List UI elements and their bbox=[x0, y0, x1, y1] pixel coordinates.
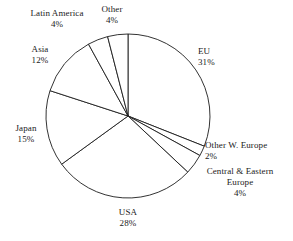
pie-label-other: Other 4% bbox=[90, 4, 134, 26]
pie-label-latin-america-name: Latin America bbox=[22, 8, 92, 19]
pie-label-asia-value: 12% bbox=[18, 55, 62, 66]
pie-label-asia-name: Asia bbox=[18, 44, 62, 55]
pie-label-latin-america: Latin America 4% bbox=[22, 8, 92, 30]
pie-label-other-name: Other bbox=[90, 4, 134, 15]
pie-chart-canvas bbox=[0, 0, 293, 241]
pie-label-central-eastern-europe: Central & Eastern Europe 4% bbox=[190, 166, 290, 199]
pie-slices bbox=[46, 34, 210, 198]
pie-label-japan-value: 15% bbox=[4, 134, 48, 145]
pie-label-usa-name: USA bbox=[101, 207, 155, 218]
pie-label-other-w-europe-value: 2% bbox=[205, 151, 267, 162]
pie-chart: EU 31% Other W. Europe 2% Central & East… bbox=[0, 0, 293, 241]
pie-label-usa-value: 28% bbox=[101, 218, 155, 229]
pie-label-other-w-europe-name: Other W. Europe bbox=[205, 140, 267, 151]
pie-label-asia: Asia 12% bbox=[18, 44, 62, 66]
pie-label-central-eastern-europe-name: Central & Eastern bbox=[190, 166, 290, 177]
pie-label-eu-name: EU bbox=[198, 46, 215, 57]
pie-label-eu: EU 31% bbox=[198, 46, 215, 68]
pie-label-other-w-europe: Other W. Europe 2% bbox=[205, 140, 267, 162]
pie-label-japan-name: Japan bbox=[4, 123, 48, 134]
pie-label-central-eastern-europe-name2: Europe bbox=[190, 177, 290, 188]
pie-label-japan: Japan 15% bbox=[4, 123, 48, 145]
pie-label-usa: USA 28% bbox=[101, 207, 155, 229]
pie-label-central-eastern-europe-value: 4% bbox=[190, 188, 290, 199]
pie-label-latin-america-value: 4% bbox=[22, 19, 92, 30]
pie-label-eu-value: 31% bbox=[198, 57, 215, 68]
pie-label-other-value: 4% bbox=[90, 15, 134, 26]
